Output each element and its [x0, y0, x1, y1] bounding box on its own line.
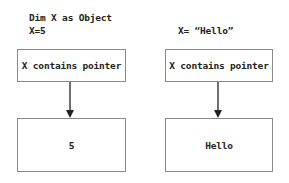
right-code-block: X= “Hello” — [178, 24, 233, 37]
right-code-line-1: X= “Hello” — [178, 24, 233, 37]
left-arrow-icon — [64, 82, 76, 119]
left-value-box: 5 — [17, 118, 126, 172]
left-pointer-box: X contains pointer — [17, 49, 126, 82]
right-value-box: Hello — [165, 118, 273, 172]
right-pointer-box: X contains pointer — [165, 49, 273, 82]
left-code-line-2: X=5 — [29, 24, 112, 37]
right-arrow-icon — [212, 82, 224, 119]
left-value-label: 5 — [69, 140, 75, 151]
right-value-label: Hello — [205, 140, 233, 151]
left-pointer-label: X contains pointer — [22, 60, 121, 71]
left-code-block: Dim X as Object X=5 — [29, 11, 112, 37]
left-code-line-1: Dim X as Object — [29, 11, 112, 24]
right-pointer-label: X contains pointer — [169, 60, 268, 71]
